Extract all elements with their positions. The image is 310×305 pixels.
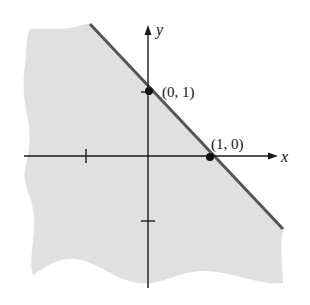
y-axis-label: y bbox=[154, 21, 164, 39]
point-0-1 bbox=[145, 87, 153, 95]
x-axis-label: x bbox=[280, 148, 288, 165]
point-label-0-1: (0, 1) bbox=[162, 84, 195, 101]
half-plane-graph: (0, 1) (1, 0) x y bbox=[0, 0, 310, 305]
point-1-0 bbox=[206, 153, 214, 161]
x-axis-arrow-icon bbox=[268, 153, 278, 160]
y-axis-arrow-icon bbox=[145, 25, 152, 35]
shaded-region bbox=[24, 24, 283, 283]
point-label-1-0: (1, 0) bbox=[211, 136, 244, 153]
